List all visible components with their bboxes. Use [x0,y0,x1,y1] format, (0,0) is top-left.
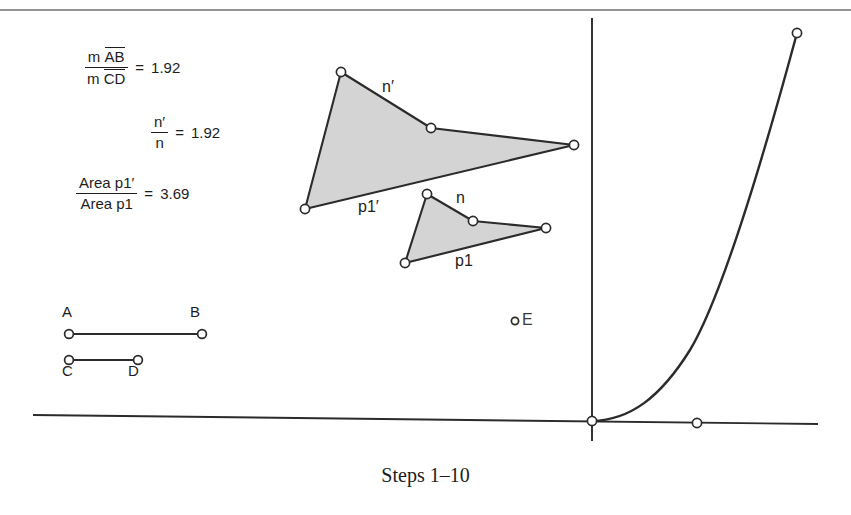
fraction-numerator: Area p1′ [76,174,137,194]
point-curve-end[interactable] [792,28,801,37]
polygon-p1-vertex-1[interactable] [422,189,431,198]
fraction-ab-cd: m AB m CD [84,47,128,87]
label-point-d: D [128,362,139,379]
segment-ab-endpoint-B[interactable] [198,330,207,339]
label-side-n: n [456,189,465,207]
segment-ab-endpoint-A[interactable] [65,330,74,339]
polygon-p1-prime-vertex-1[interactable] [336,67,345,76]
label-point-a: A [62,303,72,320]
fraction-denominator: Area p1 [77,194,136,213]
fraction-denominator: m CD [84,68,128,88]
point-e[interactable] [511,317,518,324]
polygon-p1-prime[interactable] [305,72,574,209]
fraction-area-p1: Area p1′ Area p1 [76,174,137,212]
label-polygon-p1: p1 [455,252,473,270]
polygon-p1-vertex-4[interactable] [400,258,409,267]
equals-sign: = [135,59,144,76]
label-point-e: E [522,311,533,329]
polygon-p1-vertex-3[interactable] [541,223,550,232]
measurement-ratio-ab-cd[interactable]: m AB m CD = 1.92 [84,47,180,87]
label-point-c: C [62,362,73,379]
label-point-b: B [190,303,200,320]
measurement-value: 1.92 [191,124,220,141]
label-side-n-prime: n′ [382,78,394,96]
point-origin[interactable] [587,416,596,425]
label-polygon-p1-prime: p1′ [358,198,379,216]
numerator-prefix: m [88,48,101,65]
exponential-curve[interactable] [592,33,797,421]
fraction-numerator: m AB [85,47,128,68]
point-x-axis[interactable] [692,418,701,427]
measurement-value: 1.92 [151,59,180,76]
polygon-p1-prime-vertex-2[interactable] [426,123,435,132]
measurement-ratio-n-prime-n[interactable]: n′ n = 1.92 [151,113,220,151]
measurement-value: 3.69 [160,185,189,202]
polygon-p1-prime-vertex-4[interactable] [300,204,309,213]
numerator-segment: AB [105,47,125,66]
equals-sign: = [144,185,153,202]
equals-sign: = [175,124,184,141]
measurement-ratio-area-p1[interactable]: Area p1′ Area p1 = 3.69 [76,174,189,212]
denominator-segment: CD [104,69,126,88]
fraction-denominator: n [152,133,166,152]
polygon-p1-vertex-2[interactable] [468,216,477,225]
denominator-prefix: m [87,70,100,87]
polygon-p1-prime-vertex-3[interactable] [569,140,578,149]
fraction-n-prime-n: n′ n [151,113,168,151]
fraction-numerator: n′ [151,113,168,133]
polygon-p1[interactable] [405,194,546,263]
figure-caption: Steps 1–10 [0,464,851,487]
